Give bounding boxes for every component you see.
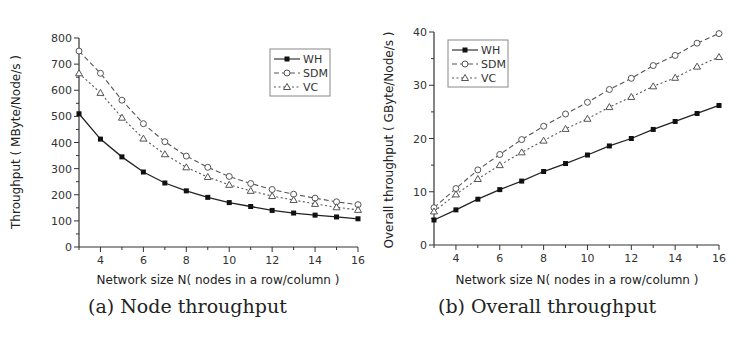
svg-text:SDM: SDM [481, 58, 506, 71]
caption-a: (a) Node throughput [88, 295, 287, 317]
y-tick-label: 600 [51, 84, 72, 97]
svg-text:WH: WH [303, 53, 322, 66]
y-tick-label: 100 [51, 215, 72, 228]
x-tick-label: 4 [452, 252, 459, 265]
y-axis-title: Throughput ( MByte/Node/s ) [9, 55, 23, 230]
series-wh [432, 103, 722, 222]
x-tick-label: 8 [183, 254, 190, 267]
legend: WHSDMVC [270, 49, 330, 96]
y-tick-label: 700 [51, 58, 72, 71]
x-axis-title: Network size N( nodes in a row/column ) [97, 273, 340, 287]
x-tick-label: 4 [97, 254, 104, 267]
y-tick-label: 40 [413, 26, 427, 39]
x-tick-label: 10 [580, 252, 594, 265]
y-tick-label: 0 [420, 239, 427, 252]
svg-text:WH: WH [481, 44, 500, 57]
y-tick-label: 20 [413, 133, 427, 146]
y-tick-label: 30 [413, 79, 427, 92]
x-tick-label: 10 [222, 254, 236, 267]
y-tick-label: 10 [413, 186, 427, 199]
node-throughput-chart: 468101214160100200300400500600700800Netw… [9, 32, 365, 287]
x-tick-label: 6 [496, 252, 503, 265]
y-tick-label: 400 [51, 137, 72, 150]
overall-throughput-chart: 46810121416010203040Network size N( node… [382, 26, 726, 287]
y-tick-label: 500 [51, 110, 72, 123]
x-tick-label: 12 [265, 254, 279, 267]
y-tick-label: 800 [51, 32, 72, 45]
y-tick-label: 0 [65, 241, 72, 254]
svg-text:VC: VC [303, 81, 319, 94]
x-tick-label: 8 [540, 252, 547, 265]
y-tick-label: 300 [51, 163, 72, 176]
x-tick-label: 16 [351, 254, 365, 267]
x-tick-label: 14 [308, 254, 322, 267]
svg-text:SDM: SDM [303, 67, 328, 80]
legend: WHSDMVC [448, 40, 508, 87]
caption-b: (b) Overall throughput [438, 295, 656, 317]
x-tick-label: 14 [668, 252, 682, 265]
x-tick-label: 12 [624, 252, 638, 265]
x-axis-title: Network size N( nodes in a row/column ) [456, 273, 699, 287]
x-tick-label: 6 [140, 254, 147, 267]
y-axis-title: Overall throughput ( GByte/Node/s ) [382, 32, 396, 249]
x-tick-label: 16 [712, 252, 726, 265]
y-tick-label: 200 [51, 189, 72, 202]
svg-text:VC: VC [481, 72, 497, 85]
